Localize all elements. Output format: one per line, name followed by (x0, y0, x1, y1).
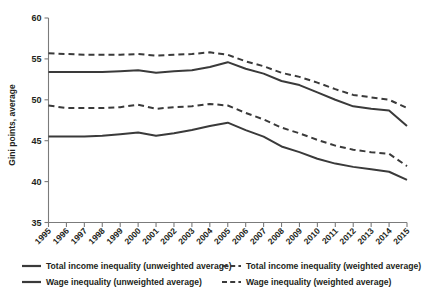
y-tick-label: 50 (31, 95, 41, 105)
legend-label-2: Wage inequality (unweighted average) (46, 277, 202, 287)
chart-background (0, 0, 427, 298)
legend-label-1: Total income inequality (weighted averag… (246, 261, 421, 271)
chart-container: Gini points, average 354045505560 199519… (0, 0, 427, 298)
y-tick-label: 45 (31, 136, 41, 146)
y-tick-label: 60 (31, 13, 41, 23)
legend-label-0: Total income inequality (unweighted aver… (46, 261, 232, 271)
gini-inequality-line-chart: Gini points, average 354045505560 199519… (0, 0, 427, 298)
y-tick-label: 40 (31, 177, 41, 187)
y-tick-label: 55 (31, 54, 41, 64)
y-tick-label: 35 (31, 218, 41, 228)
legend-label-3: Wage inequality (weighted average) (246, 277, 391, 287)
y-axis-label: Gini points, average (7, 84, 17, 166)
